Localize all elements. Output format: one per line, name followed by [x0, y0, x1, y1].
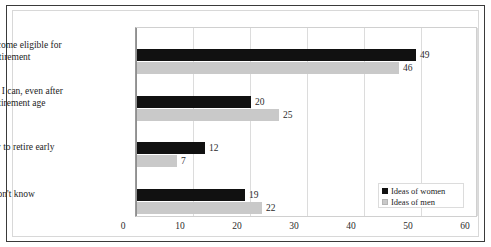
x-tick-label-5: 50: [393, 221, 423, 231]
bar-value-men-3: 22: [266, 202, 276, 214]
category-label-0-line-0: Until I become eligible for: [0, 39, 104, 51]
category-label-1-line-0: As long as I can, even after: [0, 85, 104, 97]
bar-value-women-1: 20: [255, 96, 265, 108]
category-label-0: Until I become eligible for retirement: [0, 39, 104, 63]
legend-label-women: Ideas of women: [391, 186, 445, 196]
bar-value-women-2: 12: [209, 142, 219, 154]
category-label-1: As long as I can, even after my retireme…: [0, 85, 104, 109]
bar-women-1[interactable]: [137, 96, 251, 108]
bar-men-2[interactable]: [137, 155, 177, 167]
legend-label-men: Ideas of men: [391, 197, 435, 207]
bar-men-0[interactable]: [137, 62, 399, 74]
chart-figure: Until I become eligible for retirement A…: [0, 0, 491, 247]
category-label-2: I will try to retire early: [0, 141, 104, 153]
bar-value-women-3: 19: [249, 189, 259, 201]
legend-entry-women[interactable]: Ideas of women: [382, 186, 460, 196]
legend-swatch-men-icon: [382, 199, 388, 205]
category-label-3-line-0: I don't know: [0, 188, 104, 200]
bar-value-men-2: 7: [181, 155, 186, 167]
x-tick-label-6: 60: [450, 221, 480, 231]
bar-women-0[interactable]: [137, 49, 416, 61]
category-label-0-line-1: retirement: [0, 51, 104, 63]
x-tick-label-0: 0: [108, 221, 138, 231]
legend-entry-men[interactable]: Ideas of men: [382, 197, 460, 207]
x-tick-label-1: 10: [165, 221, 195, 231]
x-tick-label-3: 30: [279, 221, 309, 231]
x-tick-label-2: 20: [222, 221, 252, 231]
chart-legend[interactable]: Ideas of women Ideas of men: [378, 183, 464, 208]
bar-women-2[interactable]: [137, 142, 205, 154]
bar-value-men-1: 25: [283, 109, 293, 121]
chart-panel: Until I become eligible for retirement A…: [12, 10, 479, 237]
bar-value-women-0: 49: [420, 49, 430, 61]
x-tick-label-4: 40: [336, 221, 366, 231]
category-label-2-line-0: I will try to retire early: [0, 141, 104, 153]
legend-swatch-women-icon: [382, 188, 388, 194]
category-label-3: I don't know: [0, 188, 104, 200]
bar-women-3[interactable]: [137, 189, 245, 201]
category-label-1-line-1: my retirement age: [0, 97, 104, 109]
bar-value-men-0: 46: [403, 62, 413, 74]
gridline-60: [477, 28, 478, 216]
bar-men-1[interactable]: [137, 109, 279, 121]
bar-men-3[interactable]: [137, 202, 262, 214]
